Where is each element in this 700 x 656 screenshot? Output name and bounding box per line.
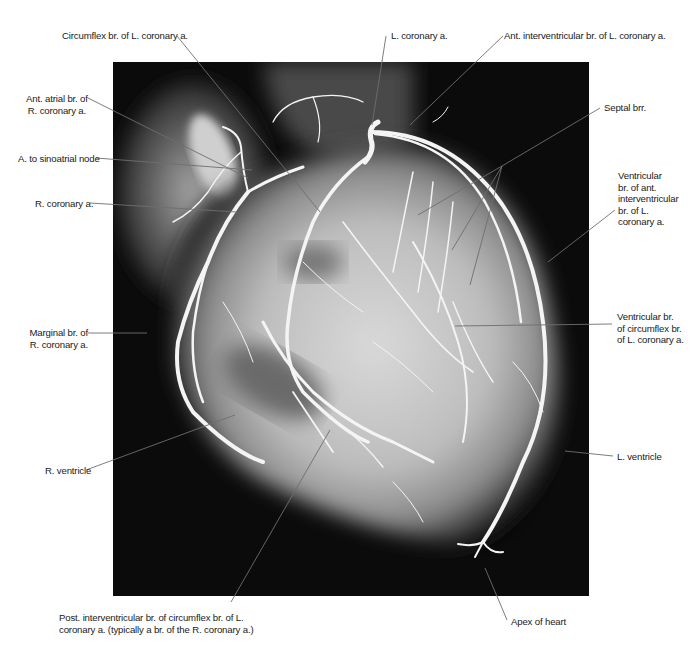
label-septal-branches: Septal brr. xyxy=(604,102,646,114)
label-circumflex-branch: Circumflex br. of L. coronary a. xyxy=(62,30,188,42)
label-marginal-branch: Marginal br. of R. coronary a. xyxy=(26,327,88,350)
label-posterior-interventricular-branch: Post. interventricular br. of circumflex… xyxy=(59,612,253,635)
label-anterior-interventricular-branch: Ant. interventricular br. of L. coronary… xyxy=(504,30,666,42)
label-left-coronary-artery: L. coronary a. xyxy=(391,30,448,42)
coronary-angiogram-figure: Circumflex br. of L. coronary a. L. coro… xyxy=(0,0,700,656)
label-apex-of-heart: Apex of heart xyxy=(511,616,566,628)
label-right-ventricle: R. ventricle xyxy=(45,465,91,477)
label-ventricular-branch-anterior: Ventricular br. of ant. interventricular… xyxy=(618,170,679,228)
label-ventricular-branch-circumflex: Ventricular br. of circumflex br. of L. … xyxy=(617,311,684,346)
label-anterior-atrial-branch: Ant. atrial br. of R. coronary a. xyxy=(26,93,86,116)
angiogram-image xyxy=(113,62,589,596)
angiogram-rendering xyxy=(113,62,589,596)
label-artery-to-sinoatrial-node: A. to sinoatrial node xyxy=(18,153,100,165)
label-right-coronary-artery: R. coronary a. xyxy=(35,198,93,210)
label-left-ventricle: L. ventricle xyxy=(617,451,662,463)
